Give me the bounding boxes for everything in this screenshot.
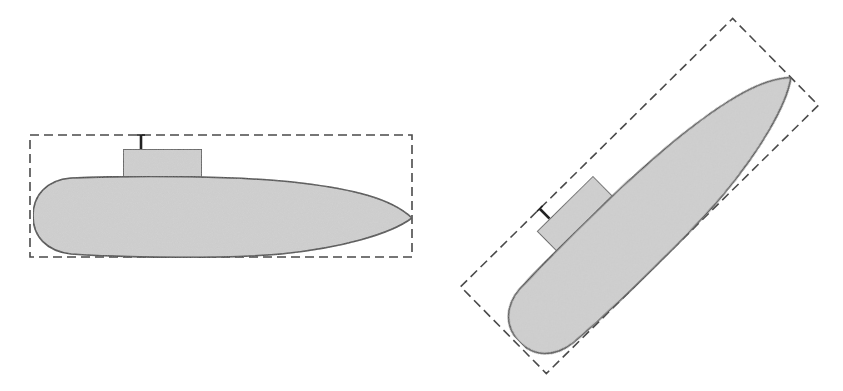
diagram-canvas xyxy=(0,0,843,391)
submarine-shape xyxy=(30,135,412,257)
submarine-rotated xyxy=(461,18,819,373)
submarine-axis-aligned xyxy=(30,135,412,257)
submarine-shape xyxy=(461,18,819,373)
